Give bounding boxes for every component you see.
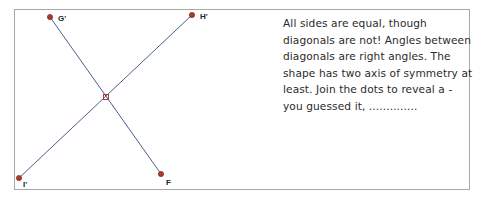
point-h[interactable]: [189, 12, 194, 17]
point-g[interactable]: [47, 14, 52, 19]
point-label-h: H': [200, 12, 208, 21]
diagonal-h-i: [19, 15, 192, 178]
point-label-f: F: [166, 178, 171, 187]
point-label-i: I': [23, 180, 27, 189]
point-f[interactable]: [158, 171, 163, 176]
diagonal-g-f: [50, 17, 161, 174]
description-text: All sides are equal, though diagonals ar…: [283, 15, 473, 115]
point-label-g: G': [58, 14, 66, 23]
point-i[interactable]: [16, 175, 21, 180]
